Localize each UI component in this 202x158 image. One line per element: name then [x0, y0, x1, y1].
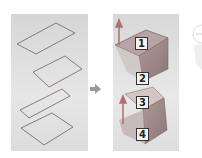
profile-1	[17, 23, 75, 54]
profile-label-3: 3	[136, 96, 149, 109]
profile-label-2: 2	[136, 72, 149, 85]
profile-label-4: 4	[136, 128, 149, 141]
profile-2	[33, 56, 82, 87]
profile-label-1: 1	[135, 37, 148, 50]
loft-result-panel: 1 2 3 4	[113, 14, 179, 151]
profiles-sketch	[11, 14, 88, 151]
profile-3	[20, 89, 70, 118]
right-arrow-icon	[90, 79, 101, 98]
profiles-panel	[11, 14, 88, 151]
partial-side-icon	[188, 24, 202, 74]
